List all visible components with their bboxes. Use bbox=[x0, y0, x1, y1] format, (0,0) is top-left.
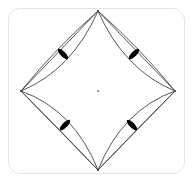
vertex-top bbox=[97, 10, 99, 12]
arc-bottom-left bbox=[21, 91, 98, 170]
center-point bbox=[97, 90, 99, 92]
vertex-right bbox=[174, 90, 176, 92]
lens-marker-top-right bbox=[127, 47, 140, 61]
diamond-diagram bbox=[0, 0, 193, 182]
vertex-bottom bbox=[97, 169, 99, 171]
arc-bottom-right bbox=[98, 91, 175, 170]
lens-marker-bottom-left bbox=[58, 118, 71, 132]
lens-marker-top-left bbox=[56, 47, 69, 61]
lens-marker-bottom-right bbox=[125, 118, 138, 132]
vertex-left bbox=[20, 90, 22, 92]
